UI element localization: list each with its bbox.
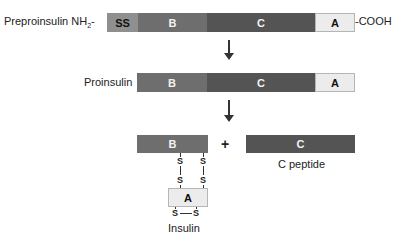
arrow-head-icon — [224, 115, 234, 122]
preproinsulin-c-segment: C — [207, 13, 315, 32]
a-label: A — [331, 77, 339, 89]
proinsulin-label: Proinsulin — [84, 76, 132, 88]
sulfur-atom: S — [177, 157, 183, 166]
c-label: C — [257, 77, 265, 89]
a-label: A — [331, 17, 339, 29]
preproinsulin-b-segment: B — [138, 13, 207, 32]
c-peptide-segment-label: C — [297, 138, 305, 150]
insulin-label: Insulin — [168, 222, 200, 234]
insulin-b-chain: B — [137, 135, 208, 153]
sulfur-atom: S — [200, 176, 206, 185]
preproinsulin-ss-segment: SS — [107, 13, 138, 32]
arrow-down-icon — [228, 100, 230, 116]
sulfur-atom: S — [193, 209, 199, 218]
ss-label: SS — [115, 17, 130, 29]
preproinsulin-label-text: Preproinsulin NH — [4, 15, 87, 27]
arrow-down-icon — [228, 40, 230, 54]
b-label: B — [168, 77, 176, 89]
disulfide-bond-line — [203, 166, 204, 175]
proinsulin-a-segment: A — [315, 73, 355, 92]
plus-sign: + — [221, 136, 229, 152]
b-label: B — [169, 17, 177, 29]
c-peptide-label: C peptide — [278, 158, 325, 170]
sulfur-atom: S — [200, 157, 206, 166]
arrow-head-icon — [224, 53, 234, 60]
proinsulin-b-segment: B — [137, 73, 207, 92]
sulfur-atom: S — [177, 176, 183, 185]
a-chain-label: A — [184, 192, 192, 204]
c-label: C — [257, 17, 265, 29]
cooh-terminal-label: -COOH — [355, 15, 392, 27]
n-terminal-dash: - — [91, 15, 95, 27]
preproinsulin-label: Preproinsulin NH2- — [4, 15, 95, 29]
sulfur-atom: S — [172, 209, 178, 218]
intrachain-bond-line — [180, 213, 192, 214]
disulfide-bond-line — [180, 166, 181, 175]
b-chain-label: B — [169, 138, 177, 150]
c-peptide-segment: C — [246, 135, 355, 153]
insulin-a-chain: A — [168, 188, 208, 207]
proinsulin-c-segment: C — [207, 73, 315, 92]
preproinsulin-a-segment: A — [315, 13, 355, 32]
